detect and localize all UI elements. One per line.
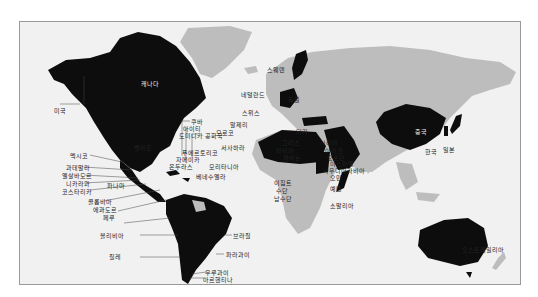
korea-shape <box>444 126 448 136</box>
label-panama: 파나마 <box>107 182 125 189</box>
label-turkey: 터키 <box>296 128 308 135</box>
label-yemen: 예멘 <box>330 185 342 192</box>
australia-shape <box>418 218 488 266</box>
label-japan: 일본 <box>443 146 455 153</box>
label-paraguay: 파라과이 <box>226 251 250 258</box>
japan-shape <box>450 114 462 134</box>
label-jamaica: 자메이카 <box>176 156 200 163</box>
label-guatemala: 과테말라 <box>66 164 90 171</box>
label-china: 중국 <box>415 128 427 135</box>
label-puerto-rico: 푸에르토리코 <box>182 149 218 156</box>
label-brazil: 브라질 <box>233 232 251 239</box>
label-nicaragua: 니카라과 <box>66 180 90 187</box>
label-south-sudan: 남수단 <box>274 195 292 202</box>
label-egypt: 이집트 <box>274 179 292 186</box>
label-canada: 캐나다 <box>141 80 159 87</box>
label-netherlands: 네덜란드 <box>241 91 265 98</box>
label-usa: 미국 <box>54 107 66 114</box>
label-oman: 오만 <box>330 174 342 181</box>
label-saudi-arabia: 사우디아라비아 <box>323 167 365 174</box>
world-map-graphic <box>20 22 521 285</box>
label-chile: 칠레 <box>109 253 121 260</box>
label-korea: 한국 <box>425 148 437 155</box>
label-uruguay: 우루과이 <box>205 269 229 276</box>
label-syria: 시리아 <box>320 139 338 146</box>
label-mauritania: 모리타니아 <box>209 163 239 170</box>
label-greece: 그리스 <box>282 139 300 146</box>
label-australia: 오스트레일리아 <box>462 246 504 253</box>
label-bolivia: 볼리비아 <box>100 232 124 239</box>
label-venezuela: 베네수엘라 <box>196 173 226 180</box>
label-switzerland: 스위스 <box>242 109 260 116</box>
label-belize: 벨리즈 <box>134 144 152 151</box>
label-morocco: 모로코 <box>216 129 234 136</box>
label-sudan: 수단 <box>276 187 288 194</box>
label-western-sahara: 서사하라 <box>221 144 245 151</box>
label-mexico: 멕시코 <box>70 152 88 159</box>
label-colombia: 콜롬비아 <box>88 198 112 205</box>
label-peru: 페루 <box>103 214 115 221</box>
label-honduras: 온두라스 <box>169 163 193 170</box>
label-somalia: 소말리아 <box>330 202 354 209</box>
label-algeria: 알제리 <box>230 121 248 128</box>
label-argentina: 아르헨티나 <box>203 276 233 283</box>
label-germany: 독일 <box>288 96 300 103</box>
label-haiti: 아이티 <box>183 125 201 132</box>
label-cuba: 쿠바 <box>191 118 203 125</box>
label-sweden: 스웨덴 <box>267 66 285 73</box>
label-lebanon: 레바논 <box>283 154 301 161</box>
label-ecuador: 에콰도르 <box>93 206 117 213</box>
label-israel: 이스라엘 <box>330 160 354 167</box>
label-costa-rica: 코스타리카 <box>62 188 92 195</box>
world-map: 캐나다 미국 멕시코 과테말라 엘살바도르 니카라과 코스타리카 파나마 콜롬비… <box>19 21 521 285</box>
label-iraq: 이라크 <box>325 147 343 154</box>
label-el-salvador: 엘살바도르 <box>62 172 92 179</box>
label-libya: 리비아 <box>276 147 294 154</box>
